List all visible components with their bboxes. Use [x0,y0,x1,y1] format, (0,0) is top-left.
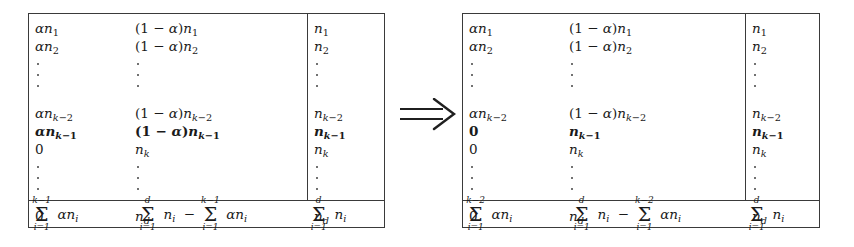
cell-nk: nk [569,143,584,158]
cell-one-minus-alpha-n2: (1 − α)n2 [135,40,198,55]
vertical-ellipsis-lower [571,164,577,200]
sigma-upper-limit: d [145,196,151,205]
vertical-ellipsis-lower [137,164,143,200]
sigma-icon: Σk−1i=1 [35,205,48,224]
total-column-3: Σdi=1ni [312,205,386,224]
total-column-2: Σdi=1ni − Σk−2i=1αni [575,205,747,224]
sigma-lower-limit: i=1 [574,223,590,232]
cell-nk-1-bold: nk−1 [314,125,345,140]
cell-one-minus-alpha-n1: (1 − α)n1 [135,22,198,37]
cell-nk-2: nk−2 [752,107,781,122]
table-right-column-1: αn1 αn2 αnk−2 0 0 0 [469,14,573,200]
sigma-upper-limit: k−2 [466,196,485,205]
sigma-lower-limit: i=1 [636,223,652,232]
sigma-icon: Σdi=1 [575,205,588,224]
matrix-table-right: αn1 αn2 αnk−2 0 0 0 (1 − α)n1 (1 − α)n2 … [462,13,820,228]
table-left-body: αn1 αn2 αnk−2 αnk−1 0 0 (1 − α)n1 (1 − α… [29,14,384,200]
sigma-upper-limit: d [754,196,760,205]
sigma-upper-limit: d [316,196,322,205]
sigma-icon: Σdi=1 [750,205,763,224]
total-column-3: Σdi=1ni [750,205,822,224]
minus-operator: − [614,206,634,222]
total-column-1: Σk−2i=1αni [469,205,587,224]
table-right-totals-row: Σk−2i=1αni Σdi=1ni − Σk−2i=1αni Σdi=1ni [463,201,819,229]
cell-alpha-n1: αn1 [35,22,59,37]
sigma-lower-limit: i=1 [140,223,156,232]
sigma-icon: Σdi=1 [141,205,154,224]
sigma-lower-limit: i=1 [34,223,50,232]
sigma-upper-limit: d [579,196,585,205]
minus-operator: − [180,206,200,222]
vertical-ellipsis-upper [37,61,43,97]
cell-alpha-n2: αn2 [469,40,493,55]
vertical-ellipsis-upper [571,61,577,97]
sigma-upper-limit: k−1 [201,196,220,205]
sigma-icon: Σk−2i=1 [469,205,482,224]
cell-zero-a: 0 [469,143,478,158]
cell-n1: n1 [314,22,329,37]
cell-nk: nk [752,143,767,158]
cell-alpha-n2: αn2 [35,40,59,55]
vertical-ellipsis-upper [316,61,322,97]
vertical-ellipsis-upper [471,61,477,97]
cell-nk-1-bold: nk−1 [569,125,600,140]
table-right-column-3: n1 n2 nk−2 nk−1 nk nd [752,14,820,200]
cell-one-minus-alpha-nk-2: (1 − α)nk−2 [135,107,212,122]
table-left-totals-row: Σk−1i=1αni Σdi=1ni − Σk−1i=1αni Σdi=1ni [29,201,384,229]
matrix-transformation-figure: αn1 αn2 αnk−2 αnk−1 0 0 (1 − α)n1 (1 − α… [0,0,854,247]
sigma-lower-limit: i=1 [749,223,765,232]
vertical-ellipsis-upper [754,61,760,97]
cell-n1: n1 [752,22,767,37]
sigma-lower-limit: i=1 [468,223,484,232]
cell-nk-2: nk−2 [314,107,343,122]
cell-one-minus-alpha-n1: (1 − α)n1 [569,22,632,37]
sigma-upper-limit: k−1 [32,196,51,205]
column-divider-rule [307,14,308,200]
cell-alpha-nk-2: αnk−2 [469,107,507,122]
matrix-table-left: αn1 αn2 αnk−2 αnk−1 0 0 (1 − α)n1 (1 − α… [28,13,385,228]
total-column-1: Σk−1i=1αni [35,205,153,224]
sigma-lower-limit: i=1 [311,223,327,232]
sigma-upper-limit: k−2 [635,196,654,205]
cell-nk-1-bold: nk−1 [752,125,783,140]
sigma-icon: Σk−2i=1 [638,205,651,224]
cell-one-minus-alpha-n2: (1 − α)n2 [569,40,632,55]
table-left-column-2: (1 − α)n1 (1 − α)n2 (1 − α)nk−2 (1 − α)n… [135,14,307,200]
table-right-body: αn1 αn2 αnk−2 0 0 0 (1 − α)n1 (1 − α)n2 … [463,14,819,200]
cell-one-minus-alpha-nk-2: (1 − α)nk−2 [569,107,646,122]
cell-n2: n2 [752,40,767,55]
sigma-icon: Σk−1i=1 [204,205,217,224]
cell-alpha-nk-1-bold: αnk−1 [35,125,77,140]
sigma-lower-limit: i=1 [202,223,218,232]
total-column-2: Σdi=1ni − Σk−1i=1αni [141,205,313,224]
column-divider-rule [745,14,746,200]
cell-alpha-nk-2: αnk−2 [35,107,73,122]
table-left-column-1: αn1 αn2 αnk−2 αnk−1 0 0 [35,14,139,200]
implies-arrow [398,98,460,132]
table-right-column-2: (1 − α)n1 (1 − α)n2 (1 − α)nk−2 nk−1 nk … [569,14,741,200]
cell-nk: nk [314,143,329,158]
cell-alpha-n1: αn1 [469,22,493,37]
sigma-icon: Σdi=1 [312,205,325,224]
cell-one-minus-alpha-nk-1-bold: (1 − α)nk−1 [135,125,220,140]
cell-n2: n2 [314,40,329,55]
table-left-column-3: n1 n2 nk−2 nk−1 nk nd [314,14,384,200]
cell-nk: nk [135,143,150,158]
vertical-ellipsis-upper [137,61,143,97]
cell-zero-bold: 0 [469,125,478,140]
cell-zero-a: 0 [35,143,44,158]
